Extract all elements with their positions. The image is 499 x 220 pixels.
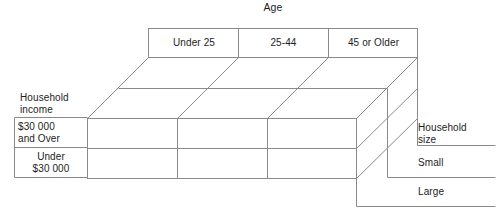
cube-top-face — [88, 58, 418, 119]
cube-front-face — [88, 119, 357, 179]
age-category-25-44: 25-44 — [241, 37, 326, 49]
size-category-large: Large — [418, 186, 488, 198]
household-income-title: Household income — [20, 92, 90, 115]
income-category-under-30000: Under $30 000 — [18, 151, 84, 174]
income-category-30000-and-over: $30 000 and Over — [18, 121, 84, 144]
household-size-title: Household size — [418, 122, 496, 145]
age-category-45-or-older: 45 or Older — [331, 37, 416, 49]
age-dimension-title: Age — [243, 2, 303, 14]
size-category-small: Small — [418, 157, 488, 169]
age-category-under-25: Under 25 — [152, 37, 236, 49]
